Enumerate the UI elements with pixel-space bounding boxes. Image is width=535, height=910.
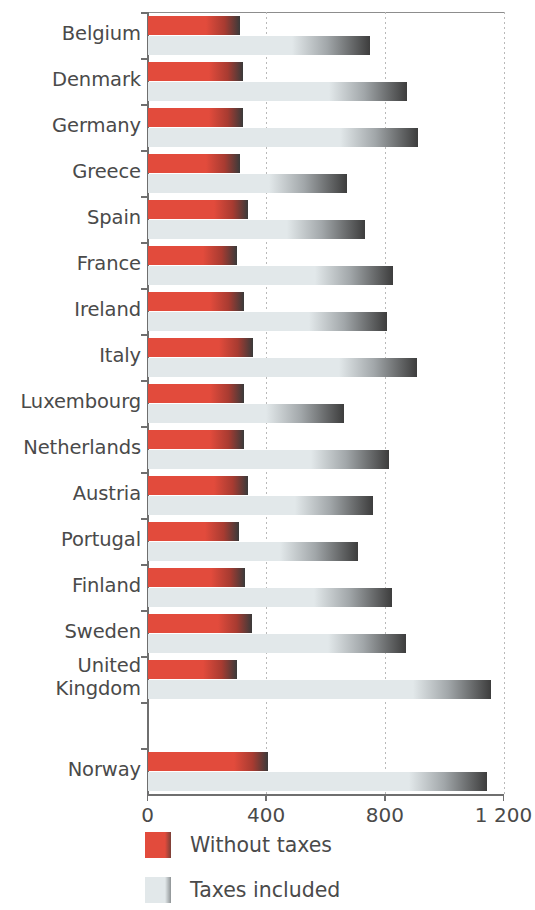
bar-tip bbox=[314, 588, 392, 607]
legend-item-without-taxes: Without taxes bbox=[145, 832, 332, 858]
bar-without-taxes bbox=[148, 62, 243, 81]
category-label: France bbox=[77, 252, 141, 275]
bar-tip bbox=[409, 772, 487, 791]
category-label: Finland bbox=[72, 574, 141, 597]
bar-tip bbox=[234, 752, 268, 771]
category-label: Spain bbox=[87, 206, 141, 229]
bar-without-taxes bbox=[148, 200, 248, 219]
bar-tip bbox=[266, 404, 344, 423]
bar-tip bbox=[311, 450, 389, 469]
y-axis-tick bbox=[141, 12, 148, 14]
category-label: Belgium bbox=[62, 22, 141, 45]
bar-tip bbox=[210, 292, 244, 311]
bar-without-taxes bbox=[148, 752, 268, 771]
bar-tip bbox=[209, 62, 243, 81]
bar-tip bbox=[214, 200, 248, 219]
category-label: Norway bbox=[68, 758, 141, 781]
y-axis-tick bbox=[141, 380, 148, 382]
bar-without-taxes bbox=[148, 476, 248, 495]
bar-tip bbox=[205, 522, 239, 541]
category-label: Netherlands bbox=[23, 436, 141, 459]
bar-tip bbox=[218, 614, 252, 633]
bar-taxes-included bbox=[148, 312, 387, 331]
bar-tip bbox=[210, 384, 244, 403]
category-label: Austria bbox=[73, 482, 141, 505]
bar-without-taxes bbox=[148, 430, 244, 449]
y-axis-tick bbox=[141, 196, 148, 198]
x-axis-tick bbox=[265, 794, 267, 801]
bar-tip bbox=[340, 128, 418, 147]
bar-without-taxes bbox=[148, 568, 245, 587]
bar-tip bbox=[280, 542, 358, 561]
bar-tip bbox=[219, 338, 253, 357]
x-axis-tick bbox=[384, 794, 386, 801]
bar-taxes-included bbox=[148, 496, 373, 515]
bar-taxes-included bbox=[148, 450, 390, 469]
bar-tip bbox=[214, 476, 248, 495]
bar-taxes-included bbox=[148, 266, 394, 285]
bar-taxes-included bbox=[148, 634, 407, 653]
category-label: Portugal bbox=[61, 528, 141, 551]
bar-tip bbox=[211, 568, 245, 587]
bar-taxes-included bbox=[148, 128, 419, 147]
bar-tip bbox=[287, 220, 365, 239]
y-axis-tick bbox=[141, 334, 148, 336]
category-label: Sweden bbox=[65, 620, 141, 643]
y-axis-tick bbox=[141, 656, 148, 658]
bar-taxes-included bbox=[148, 174, 347, 193]
chart-page: BelgiumDenmarkGermanyGreeceSpainFranceIr… bbox=[0, 0, 535, 910]
y-axis-tick bbox=[141, 748, 148, 750]
bar-without-taxes bbox=[148, 154, 240, 173]
bar-taxes-included bbox=[148, 680, 492, 699]
legend-label-taxes-included: Taxes included bbox=[190, 878, 340, 902]
bar-tip bbox=[206, 16, 240, 35]
bar-taxes-included bbox=[148, 82, 408, 101]
x-axis-line bbox=[147, 794, 504, 796]
y-axis-tick bbox=[141, 702, 148, 704]
chart-legend: Without taxes Taxes included bbox=[0, 832, 535, 910]
y-axis-tick bbox=[141, 288, 148, 290]
bar-tip bbox=[269, 174, 347, 193]
bar-taxes-included bbox=[148, 772, 488, 791]
legend-label-without-taxes: Without taxes bbox=[190, 833, 332, 857]
bar-tip bbox=[413, 680, 491, 699]
bar-tip bbox=[210, 430, 244, 449]
bar-without-taxes bbox=[148, 338, 253, 357]
bar-taxes-included bbox=[148, 542, 359, 561]
bar-tip bbox=[329, 82, 407, 101]
bar-without-taxes bbox=[148, 246, 237, 265]
y-axis-tick bbox=[141, 104, 148, 106]
category-label: Germany bbox=[52, 114, 141, 137]
x-axis-tick bbox=[503, 794, 505, 801]
bar-tip bbox=[209, 108, 243, 127]
y-axis-tick bbox=[141, 58, 148, 60]
bar-taxes-included bbox=[148, 588, 392, 607]
bar-tip bbox=[203, 660, 237, 679]
bar-without-taxes bbox=[148, 522, 239, 541]
bar-tip bbox=[203, 246, 237, 265]
x-axis-tick bbox=[147, 794, 149, 801]
legend-swatch-red-icon bbox=[145, 832, 171, 858]
legend-item-taxes-included: Taxes included bbox=[145, 877, 340, 903]
category-label: Ireland bbox=[74, 298, 141, 321]
y-axis-tick bbox=[141, 610, 148, 612]
bar-without-taxes bbox=[148, 16, 240, 35]
bar-tip bbox=[206, 154, 240, 173]
x-axis-tick-label: 1 200 bbox=[475, 803, 532, 827]
x-axis-tick-label: 400 bbox=[247, 803, 285, 827]
y-axis-tick bbox=[141, 472, 148, 474]
bar-tip bbox=[328, 634, 406, 653]
bar-without-taxes bbox=[148, 660, 237, 679]
category-label: United Kingdom bbox=[55, 654, 141, 700]
bar-taxes-included bbox=[148, 358, 418, 377]
x-axis-tick-label: 0 bbox=[141, 803, 154, 827]
category-label: Luxembourg bbox=[20, 390, 141, 413]
bar-taxes-included bbox=[148, 404, 345, 423]
bar-without-taxes bbox=[148, 384, 244, 403]
bar-tip bbox=[315, 266, 393, 285]
bar-tip bbox=[339, 358, 417, 377]
bar-tip bbox=[295, 496, 373, 515]
y-axis-tick bbox=[141, 518, 148, 520]
bar-taxes-included bbox=[148, 220, 365, 239]
y-axis-tick bbox=[141, 150, 148, 152]
